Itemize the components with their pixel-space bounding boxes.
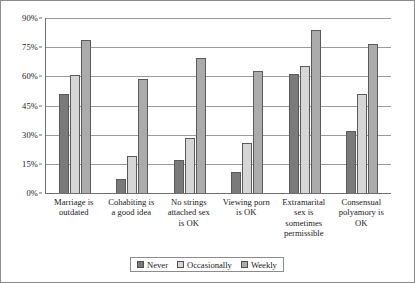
x-tick-label: Cohabiting isa good idea: [103, 197, 161, 218]
y-tick-label: 15%: [22, 159, 38, 169]
x-tick-label-line: Extramarital: [275, 197, 333, 207]
legend-label: Occasionally: [187, 260, 232, 270]
x-tick-label-line: is OK: [218, 207, 276, 217]
bar: [231, 172, 241, 193]
x-tick-label-line: Viewing porn: [218, 197, 276, 207]
x-axis-labels: Marriage isoutdatedCohabiting isa good i…: [45, 197, 391, 255]
bar: [242, 143, 252, 193]
x-tick-label-line: sometimes: [275, 218, 333, 228]
bar-group: [334, 18, 392, 193]
x-tick-label-line: outdated: [45, 207, 103, 217]
y-tick-mark: [39, 76, 42, 77]
x-tick-label-line: No strings: [160, 197, 218, 207]
legend-swatch: [241, 261, 248, 268]
bar: [196, 58, 206, 193]
legend-item: Weekly: [241, 260, 277, 270]
chart-legend: NeverOccasionallyWeekly: [130, 257, 284, 272]
x-tick-label: No stringsattached sexis OK: [160, 197, 218, 228]
bar-group: [219, 18, 277, 193]
y-tick-label: 0%: [26, 188, 38, 198]
x-tick-label-line: sex is: [275, 207, 333, 217]
y-tick-mark: [39, 47, 42, 48]
bar: [70, 75, 80, 193]
bar-group: [276, 18, 334, 193]
y-tick-mark: [39, 134, 42, 135]
bar: [300, 66, 310, 193]
x-tick-label-line: permissible: [275, 228, 333, 238]
bar: [138, 79, 148, 193]
x-tick-label-line: Cohabiting is: [103, 197, 161, 207]
bar: [311, 30, 321, 193]
bar-group: [161, 18, 219, 193]
y-tick-label: 45%: [22, 101, 38, 111]
x-tick-label: Consensualpolyamory isOK: [333, 197, 391, 228]
bar: [185, 138, 195, 193]
x-tick-label-line: OK: [333, 218, 391, 228]
bar: [127, 156, 137, 193]
bar: [81, 40, 91, 193]
y-tick-mark: [39, 193, 42, 194]
legend-swatch: [137, 261, 144, 268]
y-tick-mark: [39, 18, 42, 19]
legend-item: Occasionally: [177, 260, 232, 270]
bar-chart-figure: 0%15%30%45%60%75%90% Marriage isoutdated…: [0, 0, 415, 283]
x-tick-label-line: Marriage is: [45, 197, 103, 207]
bar: [346, 131, 356, 193]
bar: [174, 160, 184, 193]
legend-label: Weekly: [251, 260, 277, 270]
x-tick-label-line: attached sex: [160, 207, 218, 217]
y-tick-mark: [39, 105, 42, 106]
y-tick-label: 75%: [22, 42, 38, 52]
bar-group: [104, 18, 162, 193]
legend-item: Never: [137, 260, 168, 270]
x-tick-label-line: polyamory is: [333, 207, 391, 217]
x-tick-label-line: a good idea: [103, 207, 161, 217]
y-tick-label: 60%: [22, 71, 38, 81]
bar: [116, 179, 126, 193]
bar: [59, 94, 69, 193]
plot-area: [45, 18, 391, 194]
bar: [357, 94, 367, 193]
legend-label: Never: [147, 260, 168, 270]
x-tick-label: Extramaritalsex issometimespermissible: [275, 197, 333, 239]
x-tick-label-line: Consensual: [333, 197, 391, 207]
bar-group: [46, 18, 104, 193]
bar: [289, 74, 299, 193]
y-axis: 0%15%30%45%60%75%90%: [1, 18, 42, 194]
bar: [368, 44, 378, 193]
x-tick-label-line: is OK: [160, 218, 218, 228]
legend-swatch: [177, 261, 184, 268]
y-tick-mark: [39, 163, 42, 164]
y-tick-label: 90%: [22, 13, 38, 23]
x-tick-label: Marriage isoutdated: [45, 197, 103, 218]
bar: [253, 71, 263, 194]
x-tick-label: Viewing pornis OK: [218, 197, 276, 218]
y-tick-label: 30%: [22, 130, 38, 140]
